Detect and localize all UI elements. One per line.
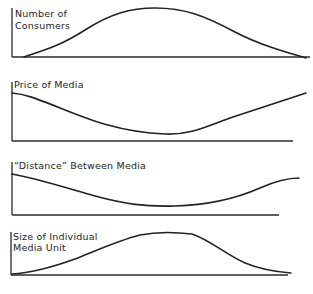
panel-label-line-2: Media Unit xyxy=(13,242,66,253)
panel-label-line-1: “Distance” Between Media xyxy=(14,160,146,171)
panel-price-of-media: Price of Media xyxy=(12,79,306,141)
panel-label-line-1: Size of Individual xyxy=(13,231,98,242)
panel-label-line-1: Price of Media xyxy=(14,79,84,90)
panel-number-of-consumers: Number of Consumers xyxy=(12,8,310,58)
price-curve xyxy=(12,93,306,134)
panel-size-of-media-unit: Size of Individual Media Unit xyxy=(11,231,291,275)
panel-distance-between-media: “Distance” Between Media xyxy=(12,160,299,215)
media-economics-figure: Number of Consumers Price of Media “Dist… xyxy=(0,0,313,294)
distance-curve xyxy=(12,174,299,206)
panel-label-line-2: Consumers xyxy=(15,20,70,31)
panel-label-line-1: Number of xyxy=(15,8,68,19)
